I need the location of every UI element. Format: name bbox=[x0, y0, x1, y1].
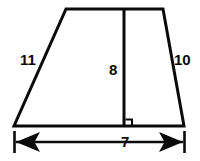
label-right-side: 10 bbox=[174, 52, 191, 67]
trapezoid-outline bbox=[14, 9, 184, 126]
trapezoid-diagram-svg bbox=[0, 0, 200, 161]
label-base: 7 bbox=[121, 134, 129, 149]
right-angle-marker-icon bbox=[126, 120, 133, 126]
label-left-side: 11 bbox=[20, 52, 36, 67]
label-height: 8 bbox=[109, 62, 117, 77]
geometry-figure: 11 10 8 7 bbox=[0, 0, 200, 161]
